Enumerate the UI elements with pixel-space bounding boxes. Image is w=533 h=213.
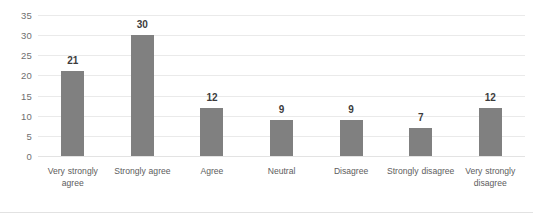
bar-value-label: 7 <box>418 112 424 123</box>
y-axis-tick-label: 10 <box>21 110 32 121</box>
y-axis-tick-label: 15 <box>21 90 32 101</box>
bar-value-label: 30 <box>137 19 148 30</box>
x-axis-category-label: Neutral <box>247 161 317 207</box>
y-axis-tick-label: 0 <box>27 151 32 162</box>
bar[interactable]: 9 <box>270 120 293 156</box>
x-axis-category-label: Strongly agree <box>108 161 178 207</box>
y-axis-tick-label: 30 <box>21 30 32 41</box>
bar-value-label: 21 <box>67 55 78 66</box>
bar-slot: 12 <box>177 15 247 156</box>
bar-slot: 30 <box>108 15 178 156</box>
bar[interactable]: 9 <box>340 120 363 156</box>
bar-slot: 21 <box>38 15 108 156</box>
bar-slot: 9 <box>247 15 317 156</box>
bar[interactable]: 12 <box>479 108 502 156</box>
bar-value-label: 12 <box>485 92 496 103</box>
x-axis-category-label: Strongly disagree <box>386 161 456 207</box>
x-axis: Very strongly agreeStrongly agreeAgreeNe… <box>38 161 525 207</box>
bar-chart: 35302520151050 21301299712 Very strongly… <box>0 0 533 213</box>
bar[interactable]: 30 <box>131 35 154 156</box>
bar-value-label: 9 <box>279 104 285 115</box>
bar[interactable]: 12 <box>200 108 223 156</box>
x-axis-category-label: Very strongly disagree <box>455 161 525 207</box>
bar-value-label: 9 <box>348 104 354 115</box>
y-axis: 35302520151050 <box>0 0 38 213</box>
bar-slot: 12 <box>455 15 525 156</box>
y-axis-tick-label: 5 <box>27 130 32 141</box>
bar-slot: 9 <box>316 15 386 156</box>
bar-value-label: 12 <box>206 92 217 103</box>
bar[interactable]: 21 <box>61 71 84 156</box>
bar-slot: 7 <box>386 15 456 156</box>
x-axis-category-label: Very strongly agree <box>38 161 108 207</box>
axis-baseline <box>38 156 525 157</box>
bar[interactable]: 7 <box>409 128 432 156</box>
bar-series: 21301299712 <box>38 15 525 156</box>
x-axis-category-label: Disagree <box>316 161 386 207</box>
y-axis-tick-label: 20 <box>21 70 32 81</box>
plot-area: 21301299712 <box>38 15 525 156</box>
x-axis-category-label: Agree <box>177 161 247 207</box>
y-axis-tick-label: 35 <box>21 10 32 21</box>
y-axis-tick-label: 25 <box>21 50 32 61</box>
